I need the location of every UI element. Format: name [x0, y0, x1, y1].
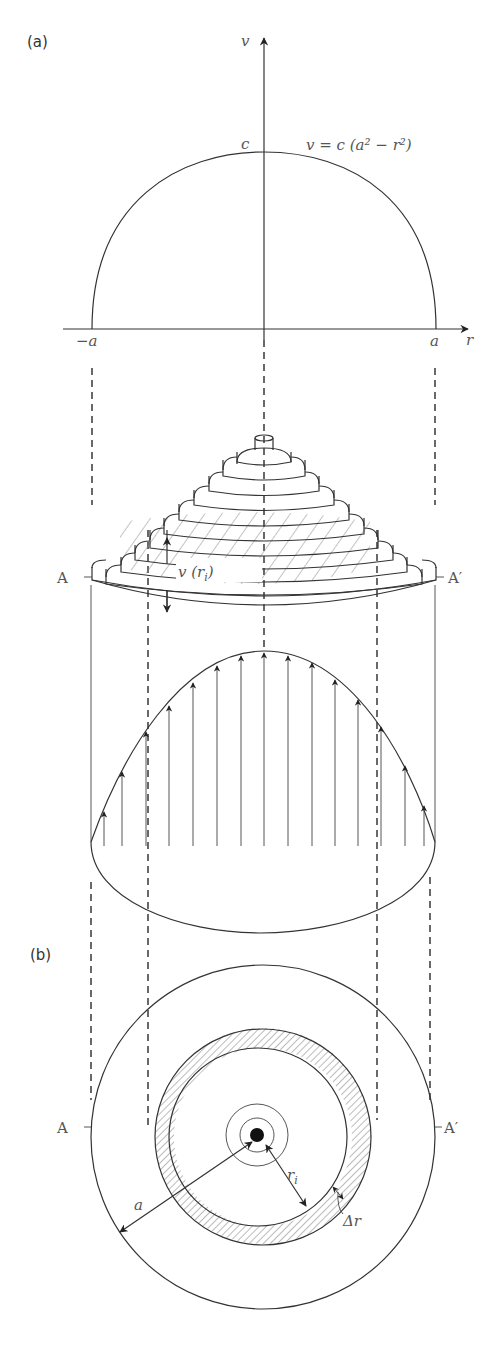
peak-label: c [241, 135, 250, 153]
radius-ri-label: ri [287, 1166, 298, 1187]
r-axis-label: r [466, 331, 474, 349]
shell-height-label: v (ri) [178, 563, 214, 584]
velocity-cylinder [91, 585, 435, 933]
parabolic-profile [91, 651, 435, 842]
poiseuille-flow-diagram: (a) v r c v = c (a² − r²) −a a [0, 0, 495, 1346]
projection-lines [91, 340, 435, 1128]
panel-label-b: (b) [30, 946, 51, 964]
panel-label-a: (a) [27, 33, 48, 51]
section-marker-a-prime: A′ [447, 569, 463, 587]
thickness-label: Δr [342, 1212, 362, 1230]
shell-stack: v (ri) A A′ [56, 435, 463, 612]
velocity-arrows [104, 653, 424, 846]
equation-label: v = c (a² − r²) [306, 136, 412, 154]
radius-ri-arrow [266, 1145, 306, 1206]
cross-section-marker-a-prime: A′ [443, 1119, 459, 1137]
cross-section-marker-a: A [56, 1119, 68, 1137]
tick-a: a [430, 332, 439, 350]
v-axis-label: v [241, 32, 250, 50]
radius-a-label: a [134, 1196, 143, 1214]
hatched-shell [120, 500, 380, 600]
cross-section: a ri Δr A A′ [56, 965, 459, 1309]
base-ellipse [91, 842, 435, 933]
top-plot: v r c v = c (a² − r²) −a a [63, 32, 474, 350]
tick-minus-a: −a [76, 332, 98, 350]
radius-a-arrow [120, 1142, 252, 1232]
section-marker-a: A [56, 569, 68, 587]
center-dot [250, 1128, 264, 1142]
